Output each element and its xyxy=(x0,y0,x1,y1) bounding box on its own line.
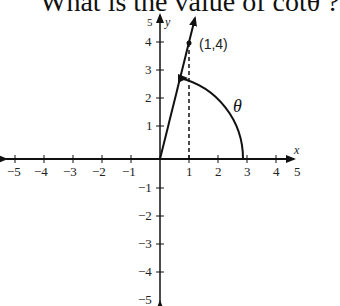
y-tick-label: −2 xyxy=(138,208,152,223)
y-tick-label: 2 xyxy=(145,90,152,105)
point-marker xyxy=(187,41,192,46)
x-tick-label: −1 xyxy=(122,164,136,179)
x-axis-label: x xyxy=(293,143,300,157)
x-tick-label: −4 xyxy=(34,164,48,179)
x-tick-label: 1 xyxy=(186,164,193,179)
y-tick-label: 5 xyxy=(147,16,153,28)
y-tick-label: 1 xyxy=(146,118,153,133)
y-tick-label: 4 xyxy=(145,34,152,49)
x-tick-label: −3 xyxy=(63,164,77,179)
arc-arrowhead xyxy=(178,74,188,83)
x-tick-label: 4 xyxy=(273,164,280,179)
y-axis-label: y xyxy=(164,15,171,29)
y-tick-label: 3 xyxy=(145,62,152,77)
y-tick-label: −3 xyxy=(138,236,152,251)
y-tick-label: −1 xyxy=(138,180,152,195)
x-tick-label: −5 xyxy=(7,164,21,179)
point-label: (1,4) xyxy=(199,36,228,52)
x-tick-label: 2 xyxy=(215,164,222,179)
x-tick-label: 3 xyxy=(244,164,251,179)
angle-arc xyxy=(180,78,243,159)
y-tick-label: −5 xyxy=(138,292,152,306)
x-tick-label: −2 xyxy=(92,164,106,179)
angle-label: θ xyxy=(233,96,242,116)
x-tick-label: 5 xyxy=(294,164,301,179)
y-tick-label: −4 xyxy=(138,264,152,279)
